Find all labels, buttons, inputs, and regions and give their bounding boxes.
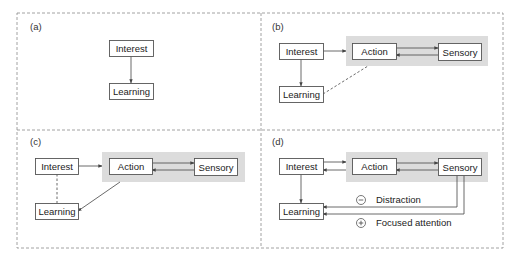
node-sensory-d: Sensory [439,159,482,176]
node-learning-a: Learning [110,84,154,100]
node-interest-c: Interest [36,159,79,175]
legend-label: Distraction [376,194,421,205]
node-interest-a: Interest [110,41,154,57]
node-learning-c: Learning [36,204,79,220]
panel-label-c: (c) [30,136,41,147]
node-learning-b: Learning [280,87,324,103]
node-action-c: Action [110,159,153,175]
edges [57,48,464,214]
node-label: Action [361,46,387,57]
node-label: Interest [41,161,73,172]
node-interest-d: Interest [280,159,324,175]
legend: DistractionFocused attention [357,194,452,228]
node-label: Action [118,161,144,172]
panel-labels: (a)(b)(c)(d) [30,21,284,147]
node-interest-b: Interest [280,44,324,60]
panel-label-d: (d) [272,136,284,147]
legend-item-focused-attention: Focused attention [357,217,452,228]
node-label: Interest [286,46,318,57]
panel-label-b: (b) [272,21,284,32]
node-label: Learning [39,206,76,217]
node-label: Interest [116,43,148,54]
node-label: Interest [286,161,318,172]
node-label: Sensory [443,162,478,173]
node-label: Sensory [199,162,234,173]
diagram-canvas: InterestLearningInterestLearningActionSe… [0,0,517,260]
edge-learning-to-action-b [323,66,368,94]
node-label: Learning [113,86,150,97]
minus-circle-icon [357,196,366,205]
node-action-d: Action [353,159,397,175]
node-sensory-b: Sensory [439,44,482,61]
node-label: Learning [283,89,320,100]
plus-circle-icon [357,219,366,228]
node-sensory-c: Sensory [195,159,238,176]
legend-item-distraction: Distraction [357,194,421,205]
node-label: Learning [283,206,320,217]
node-learning-d: Learning [280,204,324,220]
node-label: Action [361,161,387,172]
edge-action-to-learning-c [78,182,120,211]
legend-label: Focused attention [376,217,452,228]
node-label: Sensory [443,47,478,58]
panel-label-a: (a) [30,21,42,32]
node-action-b: Action [353,44,397,60]
